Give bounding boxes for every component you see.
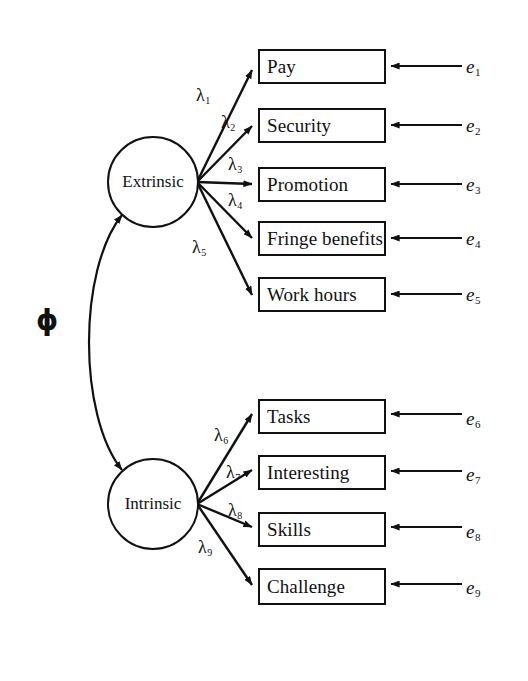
indicator-label: Promotion <box>260 174 348 196</box>
indicator-box-tasks[interactable]: Tasks <box>258 399 386 434</box>
loading-subscript: 8 <box>237 510 242 521</box>
latent-factor-label: Extrinsic <box>122 172 183 192</box>
phi-covariance-label: ϕ <box>36 307 58 335</box>
loading-label-lambda1: λ1 <box>196 85 210 106</box>
loading-label-lambda8: λ8 <box>228 500 242 521</box>
loading-subscript: 1 <box>205 95 210 106</box>
error-term-symbol: e <box>466 521 474 542</box>
loading-subscript: 6 <box>223 435 228 446</box>
indicator-box-skills[interactable]: Skills <box>258 512 386 547</box>
error-term-e2: e2 <box>466 115 480 137</box>
error-term-e5: e5 <box>466 284 480 306</box>
loading-symbol: λ <box>198 537 207 557</box>
loading-symbol: λ <box>228 154 237 174</box>
loading-label-lambda2: λ2 <box>221 112 235 133</box>
error-term-subscript: 4 <box>475 238 481 250</box>
indicator-label: Pay <box>260 56 296 78</box>
factor-loading-arrows <box>197 70 252 585</box>
loading-symbol: λ <box>221 112 230 132</box>
indicator-box-work-hours[interactable]: Work hours <box>258 277 386 312</box>
error-term-subscript: 6 <box>475 418 481 430</box>
error-term-symbol: e <box>466 577 474 598</box>
error-term-symbol: e <box>466 284 474 305</box>
indicator-label: Fringe benefits <box>260 228 383 250</box>
indicator-box-security[interactable]: Security <box>258 108 386 143</box>
error-term-symbol: e <box>466 56 474 77</box>
factor-covariance-arrow <box>89 215 122 470</box>
error-term-symbol: e <box>466 174 474 195</box>
indicator-box-challenge[interactable]: Challenge <box>258 568 386 605</box>
indicator-label: Work hours <box>260 284 357 306</box>
indicator-label: Security <box>260 115 331 137</box>
error-term-arrows <box>391 66 462 584</box>
error-term-subscript: 7 <box>475 474 481 486</box>
sem-path-diagram: ExtrinsicIntrinsic PaySecurityPromotionF… <box>0 0 528 681</box>
error-term-symbol: e <box>466 228 474 249</box>
loading-subscript: 3 <box>237 164 242 175</box>
covariance-curve <box>89 215 122 470</box>
loading-subscript: 2 <box>230 122 235 133</box>
latent-factor-intrinsic[interactable]: Intrinsic <box>107 458 199 550</box>
loading-subscript: 5 <box>201 247 206 258</box>
indicator-box-fringe-benefits[interactable]: Fringe benefits <box>258 221 386 256</box>
loading-arrow-lambda7 <box>197 470 252 504</box>
loading-arrow-lambda4 <box>197 182 252 238</box>
loading-symbol: λ <box>228 190 237 210</box>
loading-label-lambda5: λ5 <box>192 237 206 258</box>
error-term-subscript: 2 <box>475 125 481 137</box>
loading-arrow-lambda2 <box>197 126 252 182</box>
loading-arrow-lambda3 <box>197 182 252 184</box>
loading-subscript: 9 <box>207 547 212 558</box>
loading-label-lambda9: λ9 <box>198 537 212 558</box>
error-term-e7: e7 <box>466 464 480 486</box>
error-term-e6: e6 <box>466 408 480 430</box>
loading-label-lambda4: λ4 <box>228 190 242 211</box>
error-term-symbol: e <box>466 464 474 485</box>
loading-label-lambda6: λ6 <box>214 425 228 446</box>
error-term-subscript: 5 <box>475 294 481 306</box>
error-term-symbol: e <box>466 115 474 136</box>
loading-symbol: λ <box>228 500 237 520</box>
error-term-e9: e9 <box>466 577 480 599</box>
error-term-subscript: 1 <box>475 66 481 78</box>
error-term-e8: e8 <box>466 521 480 543</box>
indicator-box-promotion[interactable]: Promotion <box>258 167 386 202</box>
loading-symbol: λ <box>214 425 223 445</box>
loading-symbol: λ <box>226 462 235 482</box>
error-term-subscript: 8 <box>475 531 481 543</box>
loading-subscript: 7 <box>235 472 240 483</box>
error-term-subscript: 9 <box>475 587 481 599</box>
loading-symbol: λ <box>196 85 205 105</box>
error-term-e4: e4 <box>466 228 480 250</box>
indicator-label: Skills <box>260 519 311 541</box>
error-term-symbol: e <box>466 408 474 429</box>
latent-factor-label: Intrinsic <box>125 494 182 514</box>
error-term-subscript: 3 <box>475 184 481 196</box>
indicator-box-interesting[interactable]: Interesting <box>258 455 386 490</box>
error-term-e1: e1 <box>466 56 480 78</box>
indicator-label: Interesting <box>260 462 349 484</box>
latent-factor-extrinsic[interactable]: Extrinsic <box>107 136 199 228</box>
loading-label-lambda7: λ7 <box>226 462 240 483</box>
indicator-label: Challenge <box>260 576 345 598</box>
indicator-label: Tasks <box>260 406 311 428</box>
loading-symbol: λ <box>192 237 201 257</box>
error-term-e3: e3 <box>466 174 480 196</box>
indicator-box-pay[interactable]: Pay <box>258 49 386 84</box>
loading-subscript: 4 <box>237 200 242 211</box>
loading-label-lambda3: λ3 <box>228 154 242 175</box>
